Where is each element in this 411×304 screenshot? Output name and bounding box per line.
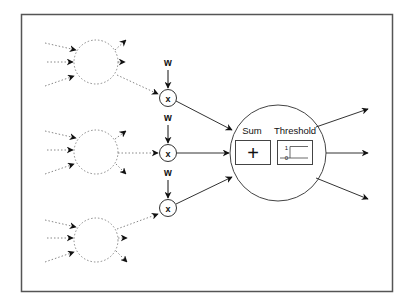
multiplier-symbol: x xyxy=(165,204,170,214)
threshold-label: Threshold xyxy=(274,125,316,136)
plus-icon: + xyxy=(247,142,259,164)
weight-label: w xyxy=(163,112,172,123)
multiplier-symbol: x xyxy=(165,149,170,159)
main-neuron: Sum Threshold + 1 0 xyxy=(230,105,326,201)
weight-label: w xyxy=(163,167,172,178)
multiplier-symbol: x xyxy=(165,94,170,104)
threshold-box xyxy=(278,141,313,165)
neuron-diagram: w x w x w x Sum Threshold + 1 xyxy=(0,0,411,304)
weight-label: w xyxy=(163,57,172,68)
sum-label: Sum xyxy=(242,125,262,136)
